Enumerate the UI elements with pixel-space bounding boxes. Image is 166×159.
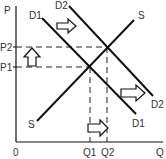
- q2-label: Q2: [101, 147, 115, 158]
- d1-label-top: D1: [29, 10, 42, 21]
- d1-label-bottom: D1: [132, 118, 145, 129]
- quantity-increase-arrow-icon: [88, 120, 108, 136]
- supply-demand-diagram: P Q 0 P2 P1 Q1 Q2 S S D1 D1 D2 D2: [0, 0, 166, 159]
- d2-label-bottom: D2: [151, 99, 164, 110]
- supply-label-bottom: S: [28, 119, 35, 130]
- p1-label: P1: [0, 62, 13, 73]
- q1-label: Q1: [83, 147, 97, 158]
- d2-label-top: D2: [55, 0, 68, 11]
- y-axis-label: P: [4, 5, 11, 16]
- demand-shift-bottom-arrow-icon: [121, 85, 145, 101]
- supply-label-top: S: [138, 10, 145, 21]
- supply-curve: [37, 20, 134, 121]
- demand-shift-top-arrow-icon: [57, 19, 76, 33]
- price-increase-arrow-icon: [24, 48, 40, 66]
- p2-label: P2: [0, 42, 13, 53]
- origin-label: 0: [13, 147, 19, 158]
- x-axis-label: Q: [156, 147, 164, 158]
